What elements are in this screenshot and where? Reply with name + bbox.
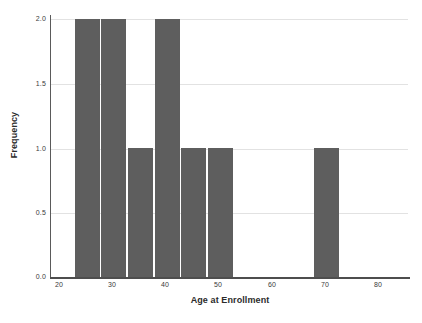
histogram-bar (314, 148, 339, 277)
y-tick-1-5-wrap: 1.5 (0, 80, 46, 90)
histogram-bar (128, 148, 153, 277)
x-tick-label-80: 80 (374, 281, 382, 288)
histogram-bar (208, 148, 233, 277)
bars-layer (50, 19, 408, 277)
x-tick-label-20: 20 (55, 281, 63, 288)
y-axis-title: Frequency (9, 75, 19, 195)
y-tick-0-0-wrap: 0.0 (0, 273, 46, 283)
x-tick-label-50: 50 (214, 281, 222, 288)
histogram-bar (155, 19, 180, 277)
y-tick-2-0-wrap: 2.0 (0, 15, 46, 25)
y-tick-label-0-5: 0.5 (2, 209, 46, 216)
y-tick-label-0-0: 0.0 (2, 273, 46, 280)
histogram-bar (181, 148, 206, 277)
plot-area (50, 19, 408, 278)
x-tick-label-70: 70 (321, 281, 329, 288)
x-tick-label-60: 60 (268, 281, 276, 288)
x-tick-label-40: 40 (161, 281, 169, 288)
y-tick-1-0-wrap: 1.0 (0, 145, 46, 155)
x-axis-title: Age at Enrollment (50, 295, 410, 305)
y-tick-label-2-0: 2.0 (2, 15, 46, 22)
x-tick-label-30: 30 (108, 281, 116, 288)
y-tick-0-5-wrap: 0.5 (0, 209, 46, 219)
histogram-chart: 2.0 1.5 1.0 0.5 0.0 20 30 40 50 60 70 80… (0, 0, 422, 323)
histogram-bar (101, 19, 126, 277)
histogram-bar (75, 19, 100, 277)
